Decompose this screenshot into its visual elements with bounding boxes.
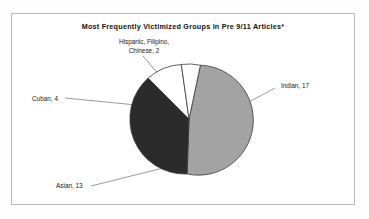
pie-label-hispanic-line2: Chinese, 2 [98,47,190,56]
figure-page: Most Frequently Victimized Groups in Pre… [0,0,369,219]
chart-frame: Most Frequently Victimized Groups in Pre… [11,13,355,205]
pie-label-cuban: Cuban, 4 [32,95,58,104]
pie-label-asian: Asian, 13 [56,182,83,191]
pie-label-indian: Indian, 17 [281,82,309,91]
pie-label-hispanic-filipino-chinese: Hispanic, Filipino, Chinese, 2 [98,38,190,55]
pie-label-hispanic-line1: Hispanic, Filipino, [98,38,190,47]
